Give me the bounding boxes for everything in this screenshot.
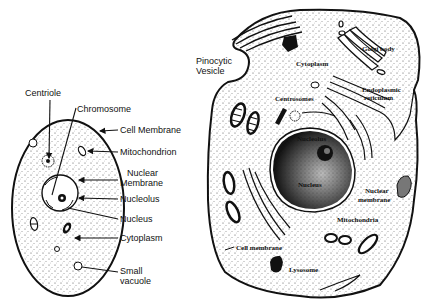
label-centriole: Centriole [25, 88, 61, 98]
label-nuclear-membrane: Membrane [120, 178, 163, 188]
label-cytoplasm: Cytoplasm [296, 60, 328, 68]
small-vacuole [74, 262, 82, 270]
lysosome-icon [270, 256, 283, 273]
label-nucleus: Nucleus [120, 214, 153, 224]
label-nucleolus: Nucleolus [120, 194, 160, 204]
label-pinocytic-vesicle: Pinocytic [196, 56, 233, 66]
vacuole [55, 247, 60, 252]
label-small-vacuole: Small [120, 266, 143, 276]
nucleus-icon [42, 175, 78, 211]
label-endoplasmic-reticulum: Endoplasmic [362, 86, 401, 94]
label-nuclear-membrane: Nuclear [365, 187, 389, 195]
simple-cell: Centriole Chromosome Cell Membrane Mitoc… [12, 88, 181, 296]
label-nuclear-membrane: Nuclear [127, 168, 158, 178]
label-pinocytic-vesicle: Vesicle [196, 66, 225, 76]
label-centrosomes: Centrosomes [275, 95, 314, 103]
label-nucleus: Nucleus [298, 181, 322, 189]
label-cell-membrane: Cell membrane [236, 244, 282, 252]
label-lysosome: Lysosome [289, 266, 318, 274]
cell-diagrams: Centriole Chromosome Cell Membrane Mitoc… [0, 0, 435, 305]
animal-cell: Pinocytic Vesicle Cytoplasm Golgi body E… [196, 10, 420, 298]
label-endoplasmic-reticulum: reticulum [364, 94, 393, 102]
label-small-vacuole: vacuole [120, 276, 151, 286]
label-cell-membrane: Cell Membrane [120, 125, 181, 135]
label-golgi-body: Golgi body [362, 45, 395, 53]
label-mitochondrion: Mitochondrion [120, 147, 177, 157]
vesicle [311, 82, 319, 88]
vacuole [29, 139, 37, 147]
label-cytoplasm: Cytoplasm [120, 233, 163, 243]
label-nucleolus: Nucleolus [297, 135, 326, 143]
label-mitochondria: Mitochondria [337, 216, 379, 224]
label-nuclear-membrane: membrane [358, 196, 390, 204]
label-chromosome: Chromosome [77, 104, 131, 114]
